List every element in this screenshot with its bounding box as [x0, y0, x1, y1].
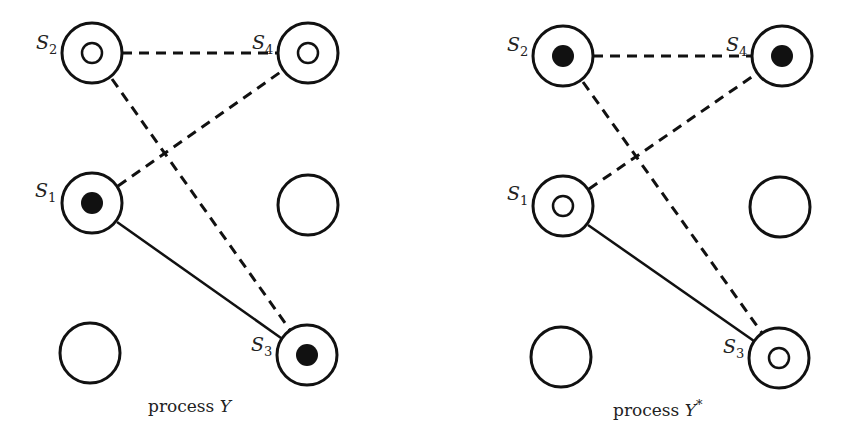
node-empty-mid-right [750, 177, 810, 237]
node-s1-outer [533, 176, 593, 236]
node-s3-outer [749, 328, 809, 388]
caption-left: process Y [148, 396, 233, 416]
node-s2-outer [62, 23, 122, 83]
edge-s1-s4-dashed [589, 74, 756, 189]
caption-right: process Y* [613, 397, 703, 420]
edge-s1-s3-solid [117, 222, 281, 338]
node-empty-bottom-left [531, 327, 591, 387]
node-s1-inner-filled [81, 192, 103, 214]
edge-s2-s3-dashed [112, 79, 290, 330]
node-s3-inner-filled [296, 344, 318, 366]
diagram-right [531, 26, 812, 388]
label-s3: S3 [723, 335, 744, 361]
node-s2-inner-filled [552, 45, 574, 67]
node-s4-outer [278, 23, 338, 83]
node-empty-mid-right [278, 175, 338, 235]
edge-s1-s3-solid [588, 225, 754, 341]
label-s1: S1 [507, 182, 528, 208]
label-s2: S2 [36, 31, 57, 57]
node-s4-inner-filled [771, 45, 793, 67]
label-s2: S2 [507, 33, 528, 59]
node-empty-bottom-left [60, 323, 120, 383]
label-s1: S1 [35, 179, 56, 205]
label-s3: S3 [251, 333, 272, 359]
diagram-canvas: S2 S4 S1 S3 process Y S2 S4 S1 S3 proces… [0, 0, 845, 445]
diagram-left [60, 23, 338, 385]
edge-s1-s4-dashed [118, 71, 282, 186]
edge-s2-s3-dashed [583, 82, 762, 333]
